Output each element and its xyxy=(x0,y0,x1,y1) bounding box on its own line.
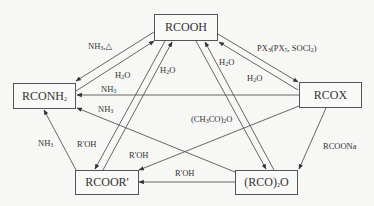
label-ac2o: (CH3CO)2O xyxy=(191,115,232,124)
node-anhydride: (RCO)2O xyxy=(235,170,298,195)
label-nh3-anhydride: NH3 xyxy=(98,105,113,114)
label-h2o-ester-acid: H2O xyxy=(160,66,175,75)
node-rcox-label: RCOX xyxy=(314,88,347,103)
node-rcoor: RCOOR' xyxy=(75,170,139,195)
node-rcooh: RCOOH xyxy=(154,14,218,41)
label-h2o-anhydride-acid: H2O xyxy=(219,58,234,67)
node-rconh2: RCONH2 xyxy=(13,83,76,109)
label-roh-1: R'OH xyxy=(77,140,96,149)
label-roh-anhydride: R'OH xyxy=(175,169,194,178)
label-nh3-heat: NH3,△ xyxy=(88,42,112,51)
node-rcox: RCOX xyxy=(299,82,362,108)
label-roh-acylhalide: R'OH xyxy=(129,151,148,160)
node-rconh2-label: RCONH2 xyxy=(22,89,67,104)
node-rcooh-label: RCOOH xyxy=(165,20,207,35)
label-h2o-acylhalide-acid: H2O xyxy=(247,74,262,83)
label-nh3-ester: NH3 xyxy=(38,139,53,148)
node-rcoor-label: RCOOR' xyxy=(85,175,129,190)
label-rcoona: RCOONa xyxy=(323,142,357,151)
arrow-acylhalide-to-anhydride xyxy=(299,108,326,169)
node-anhydride-label: (RCO)2O xyxy=(244,175,288,190)
label-px: PX3(PX5, SOCl2) xyxy=(257,44,317,53)
label-nh3-acylhalide: NH3 xyxy=(101,85,116,94)
label-h2o-amide-acid: H2O xyxy=(115,71,130,80)
